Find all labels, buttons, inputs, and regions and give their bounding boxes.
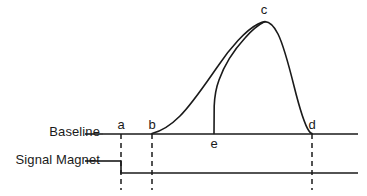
point-label-c: c xyxy=(256,2,272,17)
signal-diagram: Baseline Signal Magnet a b c d e xyxy=(0,0,367,196)
point-label-b: b xyxy=(144,117,160,132)
baseline-label: Baseline xyxy=(49,124,100,139)
outer-signal-curve xyxy=(152,22,312,134)
point-label-d: d xyxy=(304,117,320,132)
point-label-e: e xyxy=(206,136,222,151)
signal-magnet-label: Signal Magnet xyxy=(16,152,100,167)
point-label-a: a xyxy=(113,117,129,132)
